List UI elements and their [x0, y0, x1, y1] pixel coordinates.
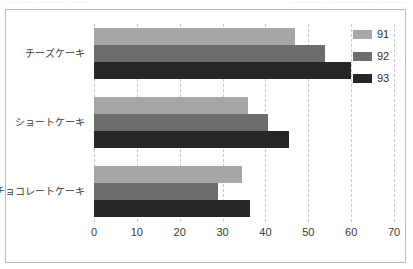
category-label: チョコレートケーキ [0, 166, 85, 217]
x-tick-label: 0 [91, 226, 97, 238]
chart-screenshot: ― ―― ――― ―― ―――― ――――― ――― チーズケーキショートケーキ… [0, 0, 413, 269]
bar-group: チョコレートケーキ [94, 166, 394, 217]
bleed-text-right: ―――― ――――― ――― [291, 0, 405, 6]
legend-label-92: 92 [377, 51, 389, 62]
bar-92 [94, 114, 268, 131]
bar-91 [94, 166, 242, 183]
x-tick-label: 70 [388, 226, 400, 238]
page-bleed-top: ― ―― ――― ―― ―――― ――――― ――― [0, 0, 413, 8]
x-tick-label: 10 [131, 226, 143, 238]
legend-swatch-92 [353, 52, 372, 61]
bar-group: ショートケーキ [94, 97, 394, 148]
plot-area: チーズケーキショートケーキチョコレートケーキ [94, 24, 394, 222]
bar-93 [94, 62, 351, 79]
category-label: ショートケーキ [15, 97, 85, 148]
bleed-text-left: ― ―― ――― ―― [6, 0, 88, 6]
x-tick-label: 30 [216, 226, 228, 238]
bar-93 [94, 200, 250, 217]
legend-item-91: 91 [353, 26, 395, 42]
bar-groups: チーズケーキショートケーキチョコレートケーキ [94, 24, 394, 222]
x-tick-label: 50 [302, 226, 314, 238]
legend-item-92: 92 [353, 48, 395, 64]
legend-label-91: 91 [377, 29, 389, 40]
legend-label-93: 93 [377, 73, 389, 84]
bar-91 [94, 28, 295, 45]
bar-91 [94, 97, 248, 114]
bar-93 [94, 131, 289, 148]
chart-legend: 919293 [353, 26, 395, 92]
x-axis-tick-labels: 010203040506070 [94, 226, 394, 242]
bar-92 [94, 45, 325, 62]
category-label: チーズケーキ [25, 28, 85, 79]
bar-92 [94, 183, 218, 200]
x-tick-label: 60 [345, 226, 357, 238]
x-tick-label: 20 [174, 226, 186, 238]
bar-group: チーズケーキ [94, 28, 394, 79]
x-tick-label: 40 [259, 226, 271, 238]
legend-swatch-91 [353, 30, 372, 39]
legend-item-93: 93 [353, 70, 395, 86]
legend-swatch-93 [353, 74, 372, 83]
